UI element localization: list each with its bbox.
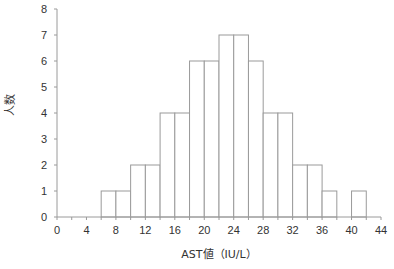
x-tick-label: 8 xyxy=(113,224,119,236)
histogram-bar xyxy=(160,113,175,217)
y-tick-label: 4 xyxy=(41,107,47,119)
histogram-bar xyxy=(352,191,367,217)
histogram-bar xyxy=(322,191,337,217)
histogram-bar xyxy=(204,61,219,217)
y-tick-label: 8 xyxy=(41,3,47,15)
x-tick-label: 36 xyxy=(316,224,328,236)
x-tick-label: 4 xyxy=(83,224,89,236)
y-tick-label: 2 xyxy=(41,159,47,171)
histogram-bar xyxy=(263,113,278,217)
x-tick-label: 32 xyxy=(287,224,299,236)
histogram-bar xyxy=(278,113,293,217)
histogram-bar xyxy=(145,165,160,217)
x-tick-label: 12 xyxy=(139,224,151,236)
histogram-bars xyxy=(101,35,366,217)
y-tick-label: 0 xyxy=(41,211,47,223)
x-tick-label: 16 xyxy=(169,224,181,236)
y-tick-label: 6 xyxy=(41,55,47,67)
histogram-bar xyxy=(307,165,322,217)
histogram-bar xyxy=(219,35,234,217)
x-tick-label: 40 xyxy=(345,224,357,236)
histogram-bar xyxy=(116,191,131,217)
histogram-chart: 012345678 048121620242832364044 AST値（IU/… xyxy=(0,0,394,269)
histogram-bar xyxy=(131,165,146,217)
x-tick-label: 28 xyxy=(257,224,269,236)
histogram-bar xyxy=(101,191,116,217)
histogram-bar xyxy=(234,35,249,217)
y-tick-label: 5 xyxy=(41,81,47,93)
histogram-bar xyxy=(190,61,205,217)
x-tick-label: 24 xyxy=(228,224,240,236)
y-axis-ticks: 012345678 xyxy=(41,3,57,223)
y-tick-label: 1 xyxy=(41,185,47,197)
y-tick-label: 7 xyxy=(41,29,47,41)
y-tick-label: 3 xyxy=(41,133,47,145)
x-axis-label: AST値（IU/L） xyxy=(181,248,256,261)
x-tick-label: 44 xyxy=(375,224,387,236)
x-axis-ticks: 048121620242832364044 xyxy=(54,217,387,236)
x-tick-label: 20 xyxy=(198,224,210,236)
x-tick-label: 0 xyxy=(54,224,60,236)
histogram-bar xyxy=(175,113,190,217)
y-axis-label: 人数 xyxy=(4,94,17,116)
histogram-bar xyxy=(293,165,308,217)
histogram-bar xyxy=(248,61,263,217)
